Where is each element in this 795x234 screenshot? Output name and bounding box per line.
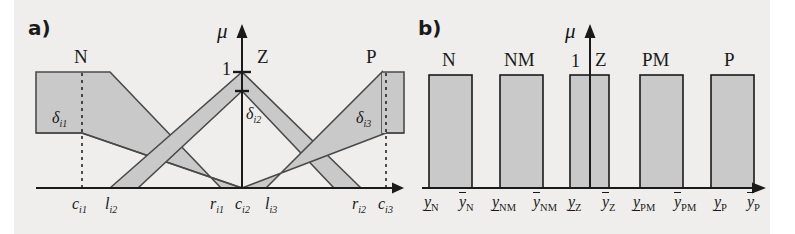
set-label-n-a: N xyxy=(74,47,88,66)
interval-bar-pm xyxy=(640,75,683,188)
xtick-a-6-sub: i3 xyxy=(385,204,393,215)
ytick-b-7-sub: PM xyxy=(681,202,696,213)
ytick-b-5-base: y xyxy=(602,194,609,210)
delta-i1-label: δi1 xyxy=(52,110,67,129)
xtick-a-0: ci1 xyxy=(72,196,87,215)
delta-i2-label: δi2 xyxy=(246,106,261,125)
ytick-b-0-sub: N xyxy=(431,202,439,213)
ytick-b-8-base: y xyxy=(714,194,721,211)
xtick-a-1-sub: i2 xyxy=(109,204,117,215)
fou-set-p xyxy=(242,72,386,188)
set-label-nm-b: NM xyxy=(504,50,535,69)
ytick-b-1-base: y xyxy=(459,194,466,210)
unit-tick-label-b: 1 xyxy=(571,52,580,70)
interval-bar-p xyxy=(711,75,754,188)
panel-b: b) N NM Z PM P μ 1 yN yN yNM xyxy=(404,0,770,234)
unit-tick-label-a: 1 xyxy=(222,60,231,78)
ytick-b-3: yNM xyxy=(533,194,557,214)
ytick-b-6-base: y xyxy=(633,194,640,211)
xtick-a-2-sub: i1 xyxy=(216,204,224,215)
interval-bar-n xyxy=(429,75,472,188)
ytick-b-9: yP xyxy=(747,194,760,214)
delta-i3-label: δi3 xyxy=(356,110,371,129)
ytick-b-0: yN xyxy=(424,194,439,214)
delta-i2-sub: i2 xyxy=(253,114,261,125)
ytick-b-4-sub: Z xyxy=(575,202,581,213)
xtick-a-2: ri1 xyxy=(210,196,224,215)
ytick-b-4-base: y xyxy=(568,194,575,211)
ytick-b-5: yZ xyxy=(602,194,616,214)
ytick-b-9-base: y xyxy=(747,194,754,210)
xtick-a-4-sub: i3 xyxy=(269,204,277,215)
xtick-a-0-sub: i1 xyxy=(79,204,87,215)
ytick-b-8: yP xyxy=(714,194,727,214)
ytick-b-2-sub: NM xyxy=(499,202,516,213)
ytick-b-1-sub: N xyxy=(466,202,474,213)
ytick-b-1: yN xyxy=(459,194,474,214)
ytick-b-5-sub: Z xyxy=(609,202,615,213)
set-label-pm-b: PM xyxy=(642,50,669,69)
ytick-b-2-base: y xyxy=(492,194,499,211)
xtick-a-5: ri2 xyxy=(352,196,366,215)
x-axis-arrow-a xyxy=(392,183,404,194)
ytick-b-6: yPM xyxy=(633,194,655,214)
xtick-a-6: ci3 xyxy=(378,196,393,215)
ytick-b-9-sub: P xyxy=(754,202,760,213)
mu-symbol-b: μ xyxy=(565,21,576,42)
set-label-n-b: N xyxy=(442,50,456,69)
delta-i1-sub: i1 xyxy=(59,118,67,129)
ytick-b-0-base: y xyxy=(424,194,431,211)
set-label-p-b: P xyxy=(724,50,735,69)
mu-axis-arrow-a xyxy=(237,24,248,38)
ytick-b-7-base: y xyxy=(674,194,681,210)
set-label-p-a: P xyxy=(366,47,377,66)
xtick-a-3: ci2 xyxy=(235,196,250,215)
ytick-b-3-base: y xyxy=(533,194,540,210)
set-label-z-a: Z xyxy=(257,47,269,66)
ytick-b-2: yNM xyxy=(492,194,516,214)
ytick-b-6-sub: PM xyxy=(640,202,655,213)
delta-i3-sub: i3 xyxy=(363,118,371,129)
xtick-a-1: li2 xyxy=(105,196,117,215)
ytick-b-3-sub: NM xyxy=(540,202,557,213)
xtick-a-3-sub: i2 xyxy=(242,204,250,215)
ytick-b-4: yZ xyxy=(568,194,582,214)
xtick-a-4: li3 xyxy=(265,196,277,215)
figure-container: a) xyxy=(0,0,795,234)
mu-symbol-a: μ xyxy=(217,21,228,42)
ytick-b-8-sub: P xyxy=(721,202,727,213)
xtick-a-5-sub: i2 xyxy=(358,204,366,215)
ytick-b-7: yPM xyxy=(674,194,696,214)
set-label-z-b: Z xyxy=(595,50,607,69)
mu-axis-arrow-b xyxy=(585,24,596,38)
panel-a: a) xyxy=(14,0,404,234)
interval-bar-nm xyxy=(500,75,543,188)
